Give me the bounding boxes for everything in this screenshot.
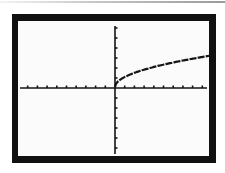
graph-screen <box>18 21 209 156</box>
function-curve <box>115 56 209 87</box>
axes <box>20 26 207 154</box>
page-top-rule <box>0 1 225 3</box>
graph-plot <box>18 21 209 156</box>
sqrt-curve <box>115 56 209 87</box>
calculator-screen-frame <box>12 14 216 163</box>
